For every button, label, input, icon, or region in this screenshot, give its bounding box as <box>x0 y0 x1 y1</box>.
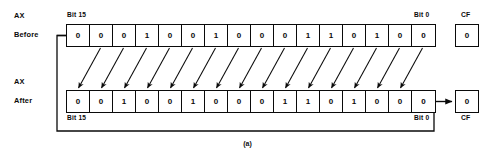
after-bit-3: 1 <box>343 91 366 112</box>
before-bit-7: 0 <box>251 25 274 46</box>
after-bit-4: 0 <box>320 91 343 112</box>
before-lsb-label: Bit 0 <box>414 12 429 19</box>
after-register-bits: 0010010001101000 <box>66 90 436 113</box>
before-state-label: Before <box>14 31 39 38</box>
before-bit-12: 1 <box>136 25 159 46</box>
before-bit-0: 0 <box>412 25 435 46</box>
carry-feedback-wire <box>57 36 434 132</box>
before-bit-3: 0 <box>343 25 366 46</box>
before-bit-9: 1 <box>205 25 228 46</box>
before-msb-label: Bit 15 <box>67 12 86 19</box>
before-register-label: AX <box>14 12 25 19</box>
before-bit-8: 0 <box>228 25 251 46</box>
after-bit-13: 1 <box>113 91 136 112</box>
before-bit-13: 0 <box>113 25 136 46</box>
after-bit-7: 0 <box>251 91 274 112</box>
after-register-label: AX <box>14 78 25 85</box>
before-bit-1: 0 <box>389 25 412 46</box>
before-bit-11: 0 <box>159 25 182 46</box>
after-bit-6: 1 <box>274 91 297 112</box>
before-carry-flag-label: CF <box>461 12 470 19</box>
after-bit-5: 1 <box>297 91 320 112</box>
after-bit-12: 0 <box>136 91 159 112</box>
after-bit-9: 0 <box>205 91 228 112</box>
before-bit-2: 1 <box>366 25 389 46</box>
before-bit-10: 0 <box>182 25 205 46</box>
after-bit-2: 0 <box>366 91 389 112</box>
after-bit-1: 0 <box>389 91 412 112</box>
after-bit-15: 0 <box>67 91 90 112</box>
after-bit-8: 0 <box>228 91 251 112</box>
before-bit-5: 1 <box>297 25 320 46</box>
after-bit-10: 1 <box>182 91 205 112</box>
before-bit-15: 0 <box>67 25 90 46</box>
before-carry-flag-box: 0 <box>455 24 479 47</box>
after-carry-flag-box: 0 <box>455 90 479 113</box>
after-bit-11: 0 <box>159 91 182 112</box>
after-lsb-label: Bit 0 <box>414 115 429 122</box>
before-register-bits: 0001001000110100 <box>66 24 436 47</box>
after-carry-flag-label: CF <box>461 115 470 122</box>
after-bit-14: 0 <box>90 91 113 112</box>
after-state-label: After <box>14 97 32 104</box>
shift-arrows <box>79 48 423 88</box>
before-bit-14: 0 <box>90 25 113 46</box>
figure-caption: (a) <box>0 140 495 147</box>
before-bit-6: 0 <box>274 25 297 46</box>
before-bit-4: 1 <box>320 25 343 46</box>
rotate-left-through-carry-figure: AX Before Bit 15 Bit 0 0001001000110100 … <box>0 0 495 158</box>
after-bit-0: 0 <box>412 91 435 112</box>
after-msb-label: Bit 15 <box>67 115 86 122</box>
